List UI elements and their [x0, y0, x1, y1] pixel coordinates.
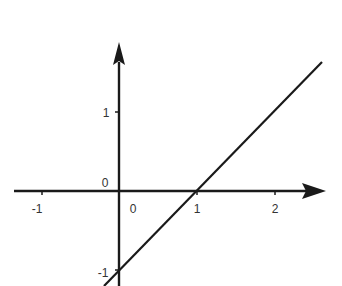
- y-tick-label-neg1: -1: [98, 266, 109, 280]
- x-tick-label-0: 0: [130, 202, 137, 216]
- y-axis-arrow-icon: [113, 42, 125, 65]
- x-tick-label-2: 2: [272, 202, 279, 216]
- function-line: [104, 62, 322, 286]
- x-tick-label-neg1: -1: [32, 202, 43, 216]
- origin-label: 0: [102, 176, 109, 190]
- y-tick-label-1: 1: [103, 106, 110, 120]
- chart-canvas: -1 0 1 2 0 1 -1: [0, 0, 342, 286]
- chart-svg: -1 0 1 2 0 1 -1: [0, 0, 342, 286]
- x-tick-label-1: 1: [194, 202, 201, 216]
